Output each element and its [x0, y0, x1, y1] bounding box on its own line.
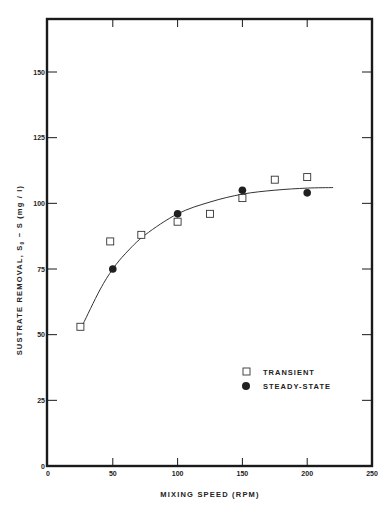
y-axis-title-main: SUSTRATE REMOVAL, S [15, 244, 24, 355]
axis-ticks [47, 19, 372, 466]
x-tick-label: 0 [46, 470, 50, 477]
plot-frame [47, 19, 372, 466]
svg-text:SUSTRATE REMOVAL, S0 − S: SUSTRATE REMOVAL, S0 − S (mg / l) [15, 185, 25, 356]
transient-point [271, 176, 278, 183]
open-square-icon [243, 368, 250, 375]
transient-point [304, 174, 311, 181]
chart: 050100150200250 0255075100125150 MIXING … [0, 0, 386, 506]
transient-point [107, 238, 114, 245]
steady-state-point [174, 210, 182, 218]
steady-state-point [303, 189, 311, 197]
legend-label-steady-state: STEADY-STATE [263, 382, 331, 391]
x-tick-label: 100 [172, 470, 184, 477]
data-points [77, 174, 311, 331]
y-axis-title: SUSTRATE REMOVAL, S0 − S (mg / l) [15, 185, 25, 356]
transient-point [239, 195, 246, 202]
y-tick-label: 150 [33, 69, 45, 76]
transient-point [77, 323, 84, 330]
steady-state-point [109, 265, 117, 273]
y-tick-label: 0 [41, 463, 45, 470]
fitted-curve [83, 188, 333, 325]
x-tick-labels: 050100150200250 [46, 470, 378, 477]
filled-circle-icon [242, 382, 250, 390]
x-tick-label: 250 [366, 470, 378, 477]
x-tick-label: 50 [109, 470, 117, 477]
transient-point [138, 231, 145, 238]
y-tick-label: 75 [37, 266, 45, 273]
transient-point [174, 218, 181, 225]
transient-point [207, 210, 214, 217]
x-tick-label: 200 [301, 470, 313, 477]
y-tick-labels: 0255075100125150 [33, 69, 45, 470]
y-tick-label: 100 [33, 200, 45, 207]
y-tick-label: 125 [33, 134, 45, 141]
y-axis-title-tail: − S (mg / l) [15, 185, 24, 241]
x-axis-title: MIXING SPEED (RPM) [160, 490, 260, 499]
y-tick-label: 50 [37, 331, 45, 338]
x-tick-label: 150 [237, 470, 249, 477]
legend-item-steady-state: STEADY-STATE [242, 382, 331, 391]
y-tick-label: 25 [37, 397, 45, 404]
legend-item-transient: TRANSIENT [243, 368, 315, 377]
legend-label-transient: TRANSIENT [263, 368, 315, 377]
plot-border [47, 19, 372, 466]
steady-state-point [239, 186, 247, 194]
legend: TRANSIENT STEADY-STATE [242, 368, 331, 391]
